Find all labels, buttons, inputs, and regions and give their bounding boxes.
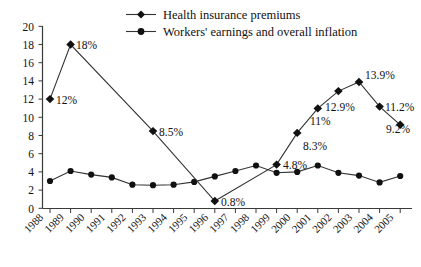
x-tick-label: 2004 [351,211,375,235]
series-workers-earnings [47,162,403,188]
x-tick-label: 1998 [227,211,251,235]
data-point-workers [315,162,321,168]
data-point-premiums [46,95,55,103]
y-tick-label: 16 [23,57,35,69]
data-label-1996: 0.8% [221,196,245,208]
y-tick-label: 2 [28,184,34,196]
data-point-workers [253,162,259,168]
x-axis-ticks [50,209,400,214]
data-label-2002: 12.9% [325,101,355,113]
data-label-2005: 9.2% [386,123,410,135]
x-tick-label: 1999 [248,211,272,235]
data-point-workers [212,173,218,179]
x-tick-label: 1990 [63,211,87,235]
data-label-2001: 11% [310,115,331,127]
y-tick-label: 4 [28,166,34,178]
legend-label-workers: Workers' earnings and overall inflation [163,25,358,39]
y-tick-label: 18 [23,39,35,51]
data-point-workers [68,168,74,174]
data-label-2000: 8.3% [303,140,327,152]
diamond-marker-icon [137,11,145,19]
x-tick-label: 2005 [372,211,396,235]
y-tick-label: 0 [28,203,34,215]
x-tick-label: 1988 [21,211,45,235]
chart-legend: Health insurance premiums Workers' earni… [126,8,358,39]
x-tick-label: 1991 [83,211,107,235]
data-point-workers [129,182,135,188]
data-point-workers [171,182,177,188]
series-health-insurance-premiums [46,40,405,205]
data-point-workers [109,174,115,180]
x-axis-tick-labels: 1988 1989 1990 1991 1992 1993 1994 1995 … [21,211,396,235]
x-tick-label: 2003 [330,211,354,235]
chart-canvas: Health insurance premiums Workers' earni… [0,0,421,267]
series-line-premiums [50,45,400,202]
data-point-workers [232,168,238,174]
data-point-workers [88,172,94,178]
data-point-workers [47,178,53,184]
x-tick-label: 2001 [289,211,313,235]
data-point-labels: 12% 18% 8.5% 0.8% 4.8% 8.3% 11% 12.9% 13… [56,39,415,208]
y-axis-tick-labels: 20 18 16 14 12 10 8 6 4 2 0 [23,21,35,215]
data-label-2003: 13.9% [365,69,395,81]
legend-label-premiums: Health insurance premiums [163,8,301,22]
y-tick-label: 10 [23,112,35,124]
data-label-1993: 8.5% [159,126,183,138]
x-tick-label: 2002 [310,211,334,235]
data-point-workers [150,182,156,188]
y-tick-label: 12 [23,93,35,105]
x-tick-label: 1993 [124,211,148,235]
y-tick-label: 20 [23,21,35,33]
x-tick-label: 1997 [207,211,231,235]
data-point-workers [335,170,341,176]
line-chart: Health insurance premiums Workers' earni… [0,0,421,267]
data-point-workers [397,173,403,179]
y-tick-label: 8 [28,130,34,142]
x-tick-label: 2000 [269,211,293,235]
legend-item-workers-earnings: Workers' earnings and overall inflation [126,25,358,39]
data-point-workers [377,179,383,185]
y-tick-label: 6 [28,148,34,160]
x-tick-label: 1994 [145,211,169,235]
circle-marker-icon [138,28,145,35]
data-point-workers [356,173,362,179]
x-tick-label: 1995 [166,211,190,235]
data-label-2004: 11.2% [385,101,415,113]
x-tick-label: 1989 [42,211,66,235]
data-label-1999: 4.8% [283,159,307,171]
data-label-1989: 18% [76,39,98,51]
y-tick-label: 14 [23,75,35,87]
data-label-1988: 12% [56,94,78,106]
data-point-workers [274,170,280,176]
series-line-workers [50,166,400,186]
x-tick-label: 1992 [104,211,128,235]
x-tick-label: 1996 [186,211,210,235]
legend-item-health-insurance-premiums: Health insurance premiums [126,8,301,22]
data-point-premiums [272,160,281,168]
